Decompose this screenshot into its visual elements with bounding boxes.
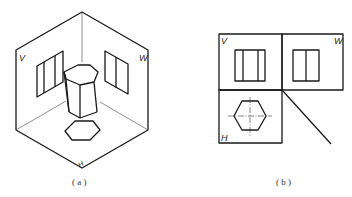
miter-line [282, 90, 331, 144]
figure-b: V W H ( b ) [219, 34, 344, 187]
caption-a: ( a ) [72, 177, 87, 187]
left-floor-edge [16, 101, 66, 130]
caption-b: ( b ) [276, 177, 291, 187]
label-v-b: V [221, 36, 228, 46]
h-plane-frame [219, 90, 282, 143]
right-floor-edge [100, 102, 148, 130]
v-plane-projection [37, 51, 63, 97]
h-plane-projection [65, 121, 100, 140]
front-view [235, 50, 265, 81]
w-plane-projection [105, 51, 128, 94]
figure-a: V W H ( a ) [16, 12, 149, 187]
top-view [228, 97, 272, 136]
side-view [293, 50, 319, 81]
hexagonal-prism [64, 65, 98, 118]
label-v: V [19, 53, 26, 63]
label-h-b: H [221, 133, 228, 143]
diagram-canvas: V W H ( a ) V W H ( b ) [0, 0, 352, 197]
